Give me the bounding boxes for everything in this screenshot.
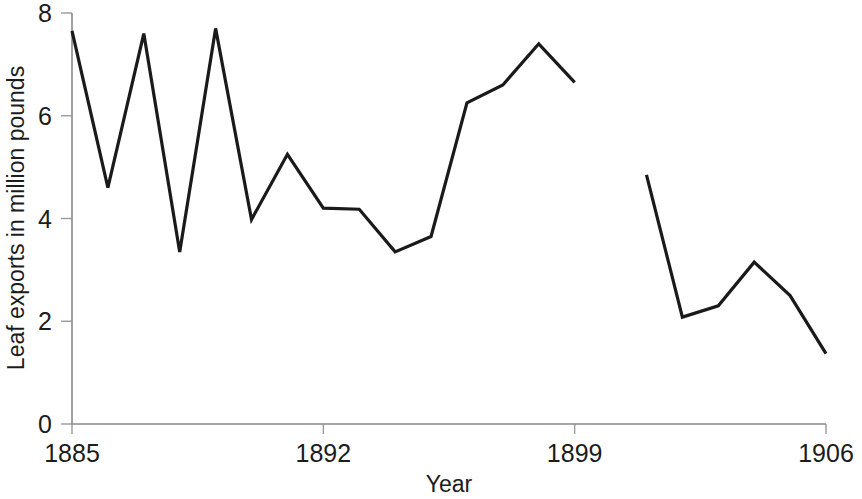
y-axis-ticks: 02468 — [38, 0, 72, 438]
y-tick-label: 2 — [38, 307, 52, 335]
x-axis-title: Year — [426, 471, 473, 497]
data-series-line — [72, 28, 575, 251]
y-axis-title: Leaf exports in million pounds — [3, 66, 29, 370]
x-tick-label: 1892 — [296, 439, 352, 467]
data-series-group — [72, 28, 826, 353]
line-chart: 02468 1885189218991906 Leaf exports in m… — [0, 0, 862, 499]
y-tick-label: 0 — [38, 410, 52, 438]
x-axis-ticks: 1885189218991906 — [44, 424, 854, 467]
x-tick-label: 1899 — [547, 439, 603, 467]
chart-page: 02468 1885189218991906 Leaf exports in m… — [0, 0, 862, 499]
y-tick-label: 8 — [38, 0, 52, 27]
x-tick-label: 1906 — [798, 439, 854, 467]
y-tick-label: 6 — [38, 102, 52, 130]
data-series-line — [646, 175, 826, 354]
y-tick-label: 4 — [38, 205, 52, 233]
x-tick-label: 1885 — [44, 439, 100, 467]
